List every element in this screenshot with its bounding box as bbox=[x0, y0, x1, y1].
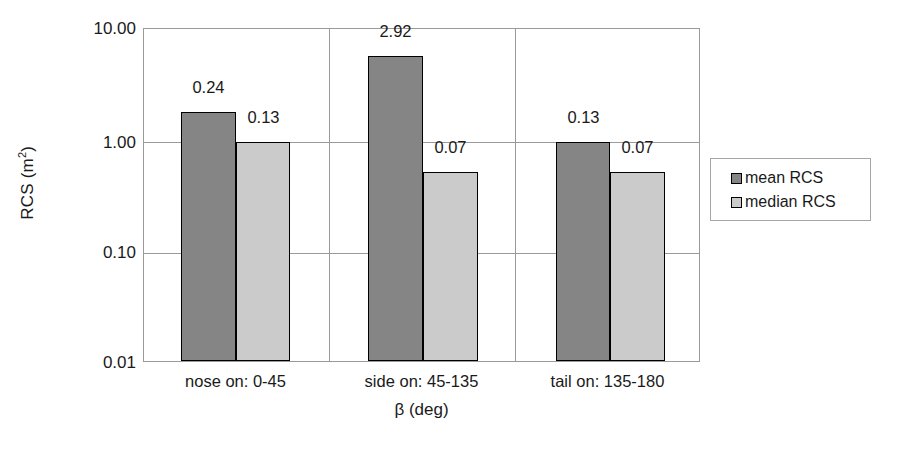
plot-area: 0.24 0.13 2.92 0.07 0.13 0.07 bbox=[143, 28, 700, 362]
category-separator-1 bbox=[329, 29, 330, 361]
y-axis-title: RCS (m2) bbox=[16, 123, 38, 243]
chart-figure: RCS (m2) 10.00 1.00 0.10 0.01 0.24 0.13 … bbox=[0, 0, 897, 452]
category-label-nose-on: nose on: 0-45 bbox=[143, 372, 328, 390]
legend-label-median: median RCS bbox=[745, 193, 836, 211]
bar-median-side-on[interactable] bbox=[423, 172, 478, 361]
bar-label-mean-side-on: 2.92 bbox=[358, 23, 433, 40]
x-axis-title: β (deg) bbox=[143, 400, 700, 420]
y-axis-title-close: ) bbox=[18, 146, 37, 152]
legend-swatch-icon-mean bbox=[731, 173, 742, 184]
legend-item-median-rcs[interactable]: median RCS bbox=[731, 190, 870, 214]
bar-label-median-nose-on: 0.13 bbox=[226, 109, 301, 126]
legend: mean RCS median RCS bbox=[710, 158, 871, 221]
y-tick-label-10: 10.00 bbox=[58, 20, 136, 37]
category-label-tail-on: tail on: 135-180 bbox=[515, 372, 700, 390]
legend-label-mean: mean RCS bbox=[745, 169, 823, 187]
y-axis-title-exponent: 2 bbox=[16, 152, 28, 158]
y-axis-title-base: RCS (m bbox=[18, 158, 37, 220]
bar-median-nose-on[interactable] bbox=[236, 142, 290, 361]
bar-mean-nose-on[interactable] bbox=[181, 112, 236, 361]
bar-label-mean-nose-on: 0.24 bbox=[171, 79, 246, 96]
bar-median-tail-on[interactable] bbox=[610, 172, 665, 361]
bar-label-mean-tail-on: 0.13 bbox=[546, 109, 621, 126]
bar-label-median-tail-on: 0.07 bbox=[600, 139, 675, 156]
bar-label-median-side-on: 0.07 bbox=[413, 139, 488, 156]
category-separator-2 bbox=[515, 29, 516, 361]
x-axis-category-labels: nose on: 0-45 side on: 45-135 tail on: 1… bbox=[143, 372, 700, 396]
y-tick-label-1: 1.00 bbox=[58, 134, 136, 151]
category-label-side-on: side on: 45-135 bbox=[329, 372, 514, 390]
y-axis-tick-labels: 10.00 1.00 0.10 0.01 bbox=[58, 0, 136, 452]
legend-item-mean-rcs[interactable]: mean RCS bbox=[731, 166, 870, 190]
bar-mean-side-on[interactable] bbox=[368, 56, 423, 361]
bar-mean-tail-on[interactable] bbox=[556, 142, 610, 361]
legend-swatch-icon-median bbox=[731, 197, 742, 208]
y-tick-label-0-01: 0.01 bbox=[58, 354, 136, 371]
y-tick-label-0-10: 0.10 bbox=[58, 244, 136, 261]
